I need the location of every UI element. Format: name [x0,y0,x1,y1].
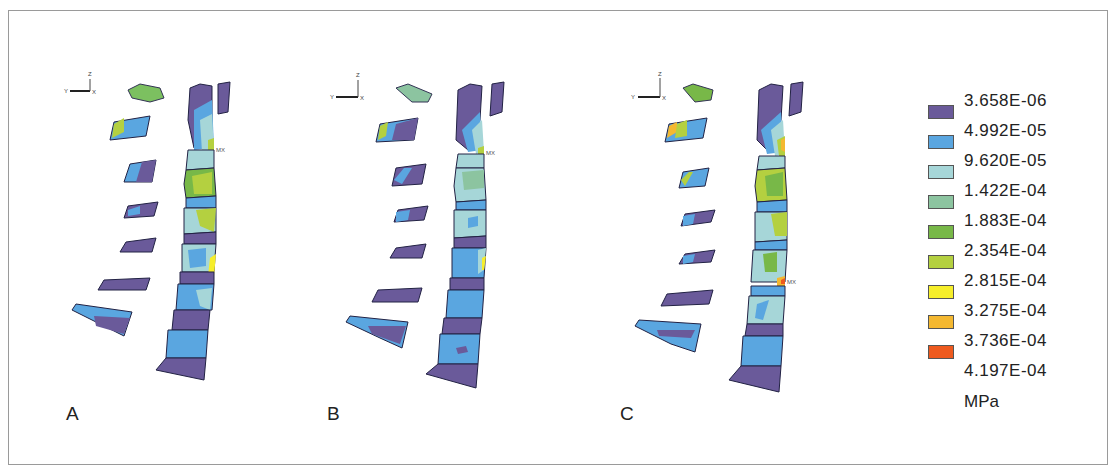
svg-text:Y: Y [64,88,68,94]
svg-text:Z: Z [658,71,662,77]
max-marker: MX [216,147,225,153]
svg-text:X: X [662,95,666,101]
legend-label-9: 4.197E-04 [964,361,1047,381]
legend-label-6: 2.815E-04 [964,271,1047,291]
legend-swatch-4 [928,225,954,239]
legend-swatch-1 [928,135,954,149]
legend-swatch-5 [928,255,954,269]
spine-model-c: Y Z X [545,0,865,471]
svg-text:X: X [360,95,364,101]
legend-label-8: 3.736E-04 [964,331,1047,351]
spine-model-b: Y Z X MX [272,0,572,471]
panel-label-a: A [66,403,79,425]
legend-label-2: 9.620E-05 [964,151,1047,171]
color-legend: 3.658E-06 4.992E-05 9.620E-05 1.422E-04 … [920,88,1100,408]
legend-label-0: 3.658E-06 [964,91,1047,111]
legend-label-3: 1.422E-04 [964,181,1047,201]
legend-swatch-6 [928,285,954,299]
max-marker: MX [486,150,495,156]
panel-label-b: B [327,403,340,425]
legend-label-5: 2.354E-04 [964,241,1047,261]
axis-triad: Y Z X [64,71,96,95]
legend-swatch-0 [928,105,954,119]
legend-swatch-7 [928,315,954,329]
panel-label-c: C [620,403,634,425]
legend-label-1: 4.992E-05 [964,121,1047,141]
axis-triad: Y Z X [330,72,364,101]
spine-model-a: Y Z X MX [0,0,300,471]
svg-text:X: X [92,89,96,95]
svg-text:Z: Z [88,71,92,77]
legend-swatch-8 [928,345,954,359]
legend-label-4: 1.883E-04 [964,211,1047,231]
svg-text:Z: Z [356,72,360,78]
legend-swatch-2 [928,165,954,179]
max-marker: MX [787,279,796,285]
legend-label-7: 3.275E-04 [964,301,1047,321]
svg-text:Y: Y [330,94,334,100]
legend-swatch-3 [928,195,954,209]
svg-text:Y: Y [631,94,635,100]
axis-triad: Y Z X [631,71,666,101]
legend-unit: MPa [964,392,999,412]
